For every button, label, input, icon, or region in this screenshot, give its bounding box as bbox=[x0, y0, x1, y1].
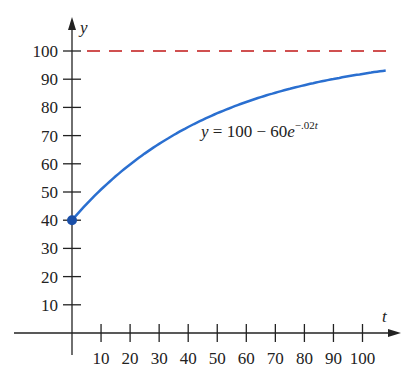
curve-line bbox=[72, 71, 386, 221]
y-tick-label: 90 bbox=[41, 70, 58, 89]
eq-exp-t: t bbox=[315, 119, 319, 131]
y-tick-label: 100 bbox=[33, 42, 59, 61]
x-axis-label: t bbox=[382, 307, 388, 326]
x-tick-label: 70 bbox=[267, 349, 284, 368]
chart: 1020304050607080901001020304050607080901… bbox=[0, 0, 411, 371]
chart-svg: 1020304050607080901001020304050607080901… bbox=[0, 0, 411, 371]
y-tick-label: 40 bbox=[41, 211, 58, 230]
y-axis-arrow-icon bbox=[68, 17, 76, 30]
x-tick-label: 100 bbox=[350, 349, 376, 368]
x-tick-label: 80 bbox=[296, 349, 313, 368]
x-tick-label: 30 bbox=[151, 349, 168, 368]
eq-exp: −.02 bbox=[295, 119, 315, 131]
x-tick-label: 10 bbox=[93, 349, 110, 368]
y-tick-label: 60 bbox=[41, 155, 58, 174]
y-tick-label: 50 bbox=[41, 183, 58, 202]
start-point bbox=[67, 215, 77, 225]
x-tick-label: 60 bbox=[238, 349, 255, 368]
y-tick-label: 30 bbox=[41, 239, 58, 258]
y-tick-label: 80 bbox=[41, 98, 58, 117]
x-tick-label: 50 bbox=[209, 349, 226, 368]
equation-label: y = 100 − 60e−.02t bbox=[199, 119, 319, 141]
x-tick-label: 40 bbox=[180, 349, 197, 368]
y-axis-label: y bbox=[78, 18, 88, 37]
x-axis-arrow-icon bbox=[388, 329, 401, 337]
eq-y: y bbox=[199, 122, 209, 141]
eq-mid: = 100 − 60 bbox=[209, 122, 288, 141]
x-tick-label: 20 bbox=[122, 349, 139, 368]
y-tick-label: 70 bbox=[41, 127, 58, 146]
y-tick-label: 10 bbox=[41, 296, 58, 315]
x-tick-label: 90 bbox=[325, 349, 342, 368]
y-tick-label: 20 bbox=[41, 268, 58, 287]
ticks: 1020304050607080901001020304050607080901… bbox=[33, 42, 376, 368]
